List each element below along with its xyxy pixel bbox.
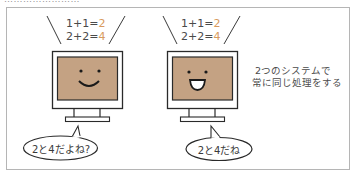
left-equations: 1+1=2 2+2=4 <box>66 17 105 43</box>
answer-value: 2 <box>213 17 220 30</box>
answer-value: 4 <box>213 30 220 43</box>
left-equation-2: 2+2=4 <box>66 30 105 43</box>
explanation-note: 2つのシステムで 常に同じ処理をする <box>252 65 342 89</box>
left-equation-1: 1+1=2 <box>66 17 105 30</box>
right-monitor-icon <box>168 52 238 122</box>
right-equation-2: 2+2=4 <box>181 30 220 43</box>
answer-value: 2 <box>98 17 105 30</box>
answer-value: 4 <box>98 30 105 43</box>
note-line-2: 常に同じ処理をする <box>252 77 342 89</box>
right-equation-1: 1+1=2 <box>181 17 220 30</box>
right-speech-text: 2と4だね <box>192 142 246 157</box>
right-equations: 1+1=2 2+2=4 <box>181 17 220 43</box>
left-speech-text: 2と4だよね? <box>32 141 90 156</box>
note-line-1: 2つのシステムで <box>252 65 342 77</box>
left-monitor-icon <box>53 52 123 122</box>
